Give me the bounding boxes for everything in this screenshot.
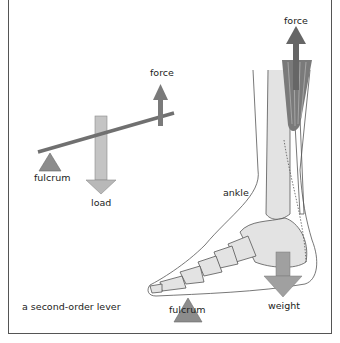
lever-fulcrum-label: fulcrum: [34, 172, 70, 183]
weight-label: weight: [268, 300, 300, 311]
ankle-label: ankle: [223, 187, 249, 198]
load-arrow-icon: [86, 116, 116, 194]
lever-load-label: load: [91, 197, 111, 208]
lever-force-label: force: [150, 67, 174, 78]
diagram-caption: a second-order lever: [22, 301, 121, 312]
foot-fulcrum-label: fulcrum: [169, 304, 205, 315]
foot-force-label: force: [284, 15, 308, 26]
fulcrum-icon: [39, 153, 61, 171]
